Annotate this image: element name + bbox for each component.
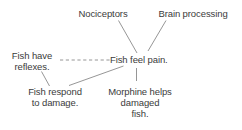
node-nociceptors: Nociceptors xyxy=(74,8,132,19)
node-fish-feel-pain: Fish feel pain. xyxy=(110,54,188,65)
edge-fish-respond-to-damage-to-fish-have-reflexes xyxy=(42,72,50,87)
node-brain-processing: Brain processing xyxy=(146,8,240,19)
concept-map-diagram: Nociceptors Brain processing Fish have r… xyxy=(0,0,242,130)
node-fish-have-reflexes: Fish have reflexes. xyxy=(2,50,62,72)
edge-brain-processing-to-fish-feel-pain xyxy=(148,21,166,52)
edge-fish-respond-to-damage-to-fish-feel-pain xyxy=(69,66,124,86)
node-fish-respond-to-damage: Fish respond to damage. xyxy=(14,86,96,108)
edge-nociceptors-to-fish-feel-pain xyxy=(119,21,138,54)
node-morphine-helps: Morphine helps damaged fish. xyxy=(98,86,182,120)
